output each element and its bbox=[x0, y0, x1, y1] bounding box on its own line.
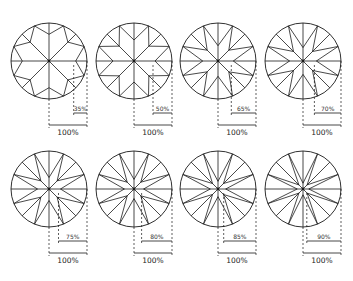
ratio-label-3: 65% bbox=[237, 106, 250, 112]
total-label-6: 100% bbox=[142, 257, 163, 265]
ratio-label-7: 85% bbox=[233, 234, 246, 240]
total-label-8: 100% bbox=[311, 257, 332, 265]
total-label-3: 100% bbox=[226, 129, 247, 137]
total-label-5: 100% bbox=[57, 257, 78, 265]
ratio-label-4: 70% bbox=[321, 106, 334, 112]
total-label-1: 100% bbox=[57, 129, 78, 137]
ratio-label-1: 35% bbox=[74, 106, 87, 112]
ratio-label-5: 75% bbox=[66, 234, 79, 240]
ratio-label-6: 80% bbox=[150, 234, 163, 240]
diamond-star-diagram-grid: 35% 50% 65% 70% 75% 80% 85% 90% 100% 100… bbox=[0, 0, 353, 281]
diagram-canvas bbox=[0, 0, 353, 281]
ratio-label-2: 50% bbox=[156, 106, 169, 112]
total-label-2: 100% bbox=[142, 129, 163, 137]
total-label-7: 100% bbox=[226, 257, 247, 265]
ratio-label-8: 90% bbox=[317, 234, 330, 240]
total-label-4: 100% bbox=[311, 129, 332, 137]
